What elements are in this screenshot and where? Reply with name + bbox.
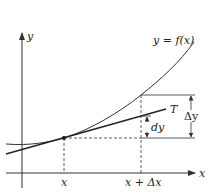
function-curve <box>6 42 194 145</box>
x-tick-label: x <box>61 176 68 189</box>
dy-label: dy <box>151 121 165 134</box>
curve-label: y = f(x) <box>152 34 194 47</box>
delta-y-label: Δy <box>184 110 199 123</box>
tangent-label: T <box>170 103 179 116</box>
x-axis-label: x <box>199 167 206 180</box>
y-axis-label: y <box>26 30 34 43</box>
differential-diagram: y x y = f(x) T dy Δy x x + Δx <box>0 0 211 193</box>
x-plus-dx-tick-label: x + Δx <box>125 176 162 189</box>
